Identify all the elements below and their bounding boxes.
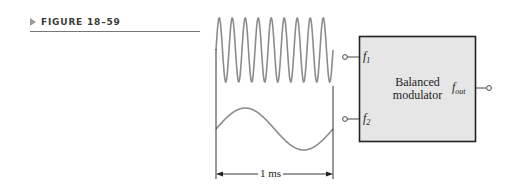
input-f1-label: f1	[363, 49, 370, 65]
output-terminal	[487, 86, 492, 91]
input-f2-label: f2	[363, 111, 370, 127]
input-f2-terminal	[343, 117, 348, 122]
waveform-f1	[216, 18, 333, 82]
input-f1-terminal	[343, 55, 348, 60]
arrow-left-icon	[216, 172, 223, 177]
output-label: fout	[452, 80, 466, 96]
time-span-label: 1 ms	[258, 167, 283, 179]
arrow-right-icon	[326, 172, 333, 177]
waveform-f2	[216, 108, 333, 150]
